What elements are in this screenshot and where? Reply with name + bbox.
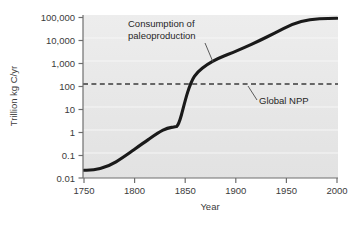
x-tick-label: 1900 — [225, 185, 246, 196]
y-axis-ticks — [79, 18, 84, 179]
x-axis-ticks — [84, 178, 337, 183]
figure-container: 100,000 10,000 1,000 100 10 1 0.1 0.01 1… — [0, 0, 352, 225]
x-tick-label: 1850 — [175, 185, 196, 196]
consumption-annotation-line2: paleoproduction — [128, 30, 196, 41]
x-tick-label: 1950 — [276, 185, 297, 196]
y-axis-tick-labels: 100,000 10,000 1,000 100 10 1 0.1 0.01 — [41, 12, 75, 184]
x-tick-label: 1800 — [124, 185, 145, 196]
y-tick-label: 100,000 — [41, 12, 75, 23]
y-axis-title: Trillion kg C/yr — [8, 66, 19, 126]
line-chart: 100,000 10,000 1,000 100 10 1 0.1 0.01 1… — [0, 0, 352, 225]
consumption-annotation-line1: Consumption of — [128, 18, 195, 29]
y-tick-label: 0.01 — [57, 173, 76, 184]
global-npp-annotation-label: Global NPP — [259, 95, 309, 106]
x-tick-label: 2000 — [326, 185, 347, 196]
x-axis-tick-labels: 1750 1800 1850 1900 1950 2000 — [73, 185, 347, 196]
y-tick-label: 1,000 — [51, 58, 75, 69]
x-tick-label: 1750 — [73, 185, 94, 196]
y-tick-label: 100 — [59, 81, 75, 92]
y-tick-label: 10,000 — [46, 35, 75, 46]
x-axis-title: Year — [200, 201, 219, 212]
y-tick-label: 0.1 — [62, 150, 75, 161]
y-tick-label: 10 — [64, 104, 75, 115]
y-tick-label: 1 — [70, 127, 75, 138]
